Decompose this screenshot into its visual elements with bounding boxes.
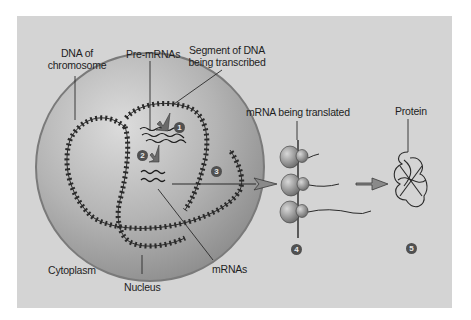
- label-cytoplasm: Cytoplasm: [48, 264, 96, 276]
- label-segment-line2: being transcribed: [182, 56, 272, 68]
- label-dna-of-chromosome: DNA of chromosome: [46, 47, 108, 71]
- label-mrnas: mRNAs: [212, 263, 247, 275]
- folded-protein-icon: [394, 152, 427, 207]
- step-badge-4: 4: [291, 244, 302, 255]
- ribosomes-translating-icon: [280, 140, 371, 238]
- arrow-right-icon: [356, 178, 388, 190]
- step-badge-3: 3: [211, 166, 222, 177]
- label-pre-mrnas: Pre-mRNAs: [126, 48, 180, 60]
- label-mrna-being-translated: mRNA being translated: [246, 106, 350, 118]
- label-protein: Protein: [395, 105, 427, 117]
- step-badge-5: 5: [406, 243, 417, 254]
- label-segment-line1: Segment of DNA: [182, 44, 272, 56]
- step-badge-2: 2: [137, 150, 148, 161]
- label-segment-of-dna: Segment of DNA being transcribed: [182, 44, 272, 68]
- label-dna-of-chromosome-line1: DNA of: [46, 47, 108, 59]
- label-dna-of-chromosome-line2: chromosome: [46, 59, 108, 71]
- step-badge-1: 1: [174, 122, 185, 133]
- label-nucleus: Nucleus: [124, 281, 161, 293]
